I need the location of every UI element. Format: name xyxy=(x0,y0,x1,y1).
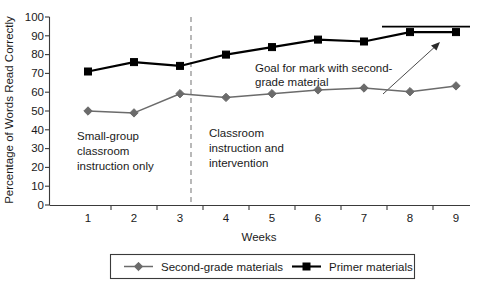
legend-label-primer: Primer materials xyxy=(329,261,413,273)
x-tick-label-7: 7 xyxy=(361,212,367,224)
marker-primer-w4 xyxy=(223,51,230,58)
marker-second-w8 xyxy=(406,88,414,96)
marker-primer-w1 xyxy=(85,68,92,75)
goal-callout-label: Goal for mark with second- grade materia… xyxy=(255,62,393,88)
x-tick-label-5: 5 xyxy=(269,212,275,224)
marker-primer-w6 xyxy=(315,36,322,43)
chart-legend: Second-grade materials Primer materials xyxy=(111,255,415,279)
marker-second-w2 xyxy=(130,109,138,117)
x-tick-label-9: 9 xyxy=(453,212,459,224)
y-tick-label-90: 90 xyxy=(31,30,44,42)
x-tick-label-2: 2 xyxy=(131,212,137,224)
y-axis-ticks xyxy=(45,17,50,205)
x-tick-label-4: 4 xyxy=(223,212,230,224)
x-axis-ticks xyxy=(111,206,433,211)
marker-second-w9 xyxy=(452,82,460,90)
chart-svg: Percentage of Words Read Correctly 100 9… xyxy=(0,0,482,284)
y-tick-label-10: 10 xyxy=(31,180,44,192)
y-tick-label-80: 80 xyxy=(31,48,44,60)
x-tick-label-1: 1 xyxy=(85,212,91,224)
phase-a-label: Small-group classroom instruction only xyxy=(77,130,154,172)
marker-primer-w8 xyxy=(407,29,414,36)
phase-b-label-line-2: instruction and xyxy=(209,142,284,154)
y-axis-title: Percentage of Words Read Correctly xyxy=(3,16,15,204)
y-tick-label-50: 50 xyxy=(31,105,44,117)
x-tick-label-3: 3 xyxy=(177,212,183,224)
legend-label-second-grade: Second-grade materials xyxy=(161,261,283,273)
marker-second-w7 xyxy=(360,84,368,92)
phase-b-label-line-3: intervention xyxy=(209,157,268,169)
chart-figure: Percentage of Words Read Correctly 100 9… xyxy=(0,0,482,284)
phase-a-label-line-2: classroom xyxy=(77,145,129,157)
y-tick-label-20: 20 xyxy=(31,161,44,173)
goal-callout-line-1: Goal for mark with second- xyxy=(255,62,393,74)
legend-marker-square-icon xyxy=(303,263,310,270)
goal-callout-line-2: grade material xyxy=(255,76,329,88)
marker-second-w4 xyxy=(222,93,230,101)
y-tick-label-100: 100 xyxy=(25,11,44,23)
x-axis-title: Weeks xyxy=(242,231,277,243)
x-tick-label-6: 6 xyxy=(315,212,321,224)
marker-primer-w7 xyxy=(361,38,368,45)
marker-primer-w3 xyxy=(177,62,184,69)
x-tick-label-8: 8 xyxy=(407,212,413,224)
marker-second-w1 xyxy=(84,107,92,115)
y-tick-label-30: 30 xyxy=(31,142,44,154)
phase-b-label-line-1: Classroom xyxy=(209,127,264,139)
marker-primer-w5 xyxy=(269,44,276,51)
marker-second-w3 xyxy=(176,90,184,98)
marker-second-w5 xyxy=(268,90,276,98)
y-tick-label-70: 70 xyxy=(31,67,44,79)
marker-primer-w2 xyxy=(131,59,138,66)
phase-b-label: Classroom instruction and intervention xyxy=(209,127,284,169)
y-tick-label-60: 60 xyxy=(31,86,44,98)
phase-a-label-line-1: Small-group xyxy=(77,130,139,142)
phase-a-label-line-3: instruction only xyxy=(77,160,154,172)
y-tick-label-0: 0 xyxy=(38,199,44,211)
marker-primer-w9 xyxy=(453,29,460,36)
y-tick-label-40: 40 xyxy=(31,124,44,136)
